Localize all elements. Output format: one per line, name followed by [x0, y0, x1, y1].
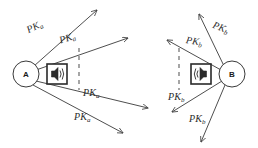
speaker-icon-a: [47, 64, 67, 84]
diagram-canvas: A B PKa PKa PKa PKa PKb PKb PKb PKb: [0, 0, 258, 148]
node-b[interactable]: B: [219, 61, 245, 87]
pk-label-a-3: PKa: [83, 88, 100, 98]
node-b-label: B: [229, 70, 235, 79]
broadcast-arrow-a-4: [33, 85, 123, 133]
pk-label-a-4: PKa: [74, 112, 91, 122]
node-a[interactable]: A: [13, 61, 39, 87]
node-a-label: A: [23, 70, 29, 79]
pk-label-a-2: PKa: [58, 31, 77, 46]
speaker-icon-b: [191, 64, 211, 84]
pk-label-b-3: PKb: [168, 92, 185, 102]
pk-label-b-4: PKb: [189, 114, 206, 124]
